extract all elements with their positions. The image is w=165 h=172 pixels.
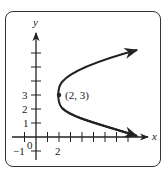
- origin-label: 0: [27, 139, 33, 151]
- parabola-graph: y x 0 2 −1 1 2 3 (2, 3): [0, 0, 165, 172]
- y-tick-label-2: 2: [22, 103, 28, 115]
- vertex-point: [57, 93, 61, 97]
- y-tick-label-3: 3: [22, 89, 28, 101]
- vertex-label: (2, 3): [65, 89, 89, 102]
- y-tick-label-1: 1: [23, 117, 29, 129]
- y-tick-label-neg1: −1: [13, 145, 25, 157]
- x-tick-label-2: 2: [55, 145, 61, 157]
- x-axis-label: x: [151, 130, 157, 142]
- y-axis-label: y: [32, 16, 38, 28]
